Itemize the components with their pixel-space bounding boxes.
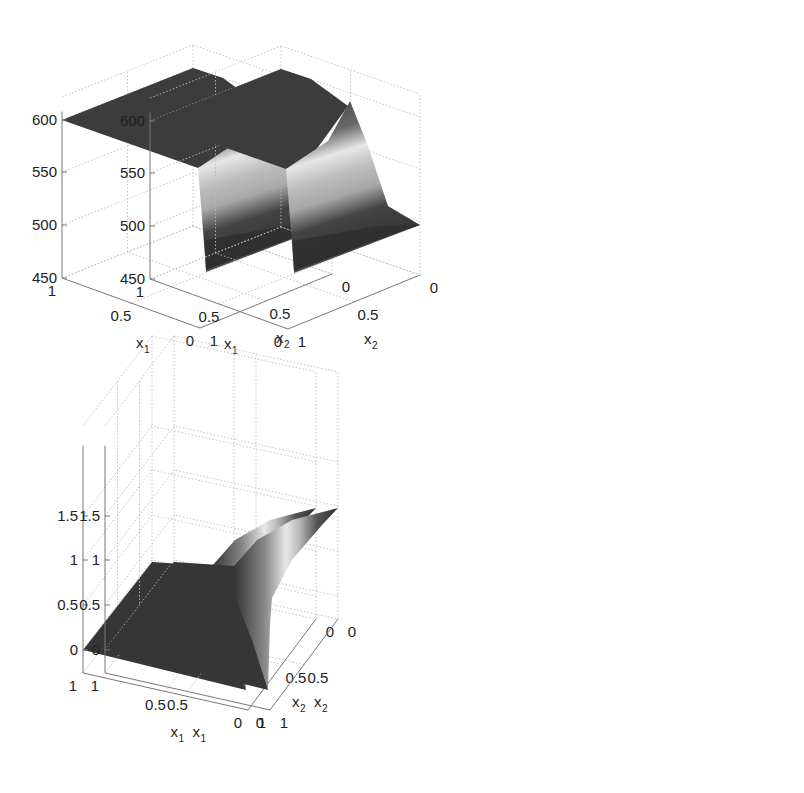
x2-tick-label: 1	[298, 333, 306, 350]
z-tick-label: 0.5	[57, 596, 78, 613]
x2-tick-label: 0	[430, 279, 438, 296]
x1-tick-label: 0.5	[145, 696, 166, 713]
x1-tick-label: 1	[48, 282, 56, 299]
x1-tick-label: 0.5	[199, 308, 220, 325]
x1-tick-label: 1	[69, 677, 77, 694]
x2-tick-label: 0.5	[286, 669, 307, 686]
z-tick-label: 600	[120, 112, 145, 129]
x1-axis-label: x	[136, 334, 144, 351]
z-tick-label: 1	[70, 551, 78, 568]
x2-axis-label: x	[314, 693, 322, 710]
x1-axis-label: x	[193, 723, 201, 740]
z-tick-label: 1	[92, 551, 100, 568]
figure-canvas: 45050055060010.5000.51x1x245050055060010…	[0, 0, 804, 793]
z-tick-label: 0.5	[79, 596, 100, 613]
grid-line	[83, 426, 316, 516]
x1-tick-label: 0	[234, 714, 242, 731]
x1-axis-label: x	[171, 723, 179, 740]
x2-axis-subscript: 2	[372, 340, 378, 351]
x2-tick-label: 0.5	[308, 669, 329, 686]
x2-axis-subscript: 2	[300, 703, 306, 714]
x2-tick-label: 0.5	[358, 306, 379, 323]
z-tick-label: 1.5	[79, 507, 100, 524]
z-tick-label: 0	[70, 641, 78, 658]
x1-tick-label: 0.5	[167, 696, 188, 713]
x2-axis-line	[288, 275, 420, 329]
x1-tick-label: 0.5	[111, 307, 132, 324]
x2-axis-label: x	[364, 330, 372, 347]
x2-tick-label: 0.5	[270, 305, 291, 322]
z-tick-label: 550	[32, 163, 57, 180]
x1-tick-label: 0	[274, 333, 282, 350]
x1-axis-label: x	[224, 335, 232, 352]
z-tick-label: 500	[32, 216, 57, 233]
x2-axis-subscript: 2	[284, 339, 290, 350]
z-tick-label: 500	[120, 217, 145, 234]
x2-tick-label: 0	[342, 278, 350, 295]
x2-tick-label: 1	[280, 714, 288, 731]
z-tick-label: 1.5	[57, 507, 78, 524]
z-tick-label: 550	[120, 164, 145, 181]
x2-tick-label: 0	[348, 623, 356, 640]
x1-axis-subscript: 1	[201, 733, 207, 744]
x1-tick-label: 0	[186, 332, 194, 349]
x1-tick-label: 0	[256, 714, 264, 731]
x1-tick-label: 1	[91, 677, 99, 694]
x2-axis-subscript: 2	[322, 703, 328, 714]
x2-tick-label: 1	[210, 332, 218, 349]
x1-tick-label: 1	[136, 283, 144, 300]
x2-axis-label: x	[292, 693, 300, 710]
grid-line	[105, 426, 338, 516]
x2-axis-line	[200, 274, 332, 328]
z-tick-label: 600	[32, 111, 57, 128]
x1-axis-subscript: 1	[144, 344, 150, 355]
grid-line	[174, 336, 338, 372]
x2-axis-line	[270, 619, 338, 710]
z-tick-label: 0	[92, 641, 100, 658]
x1-axis-subscript: 1	[179, 733, 185, 744]
